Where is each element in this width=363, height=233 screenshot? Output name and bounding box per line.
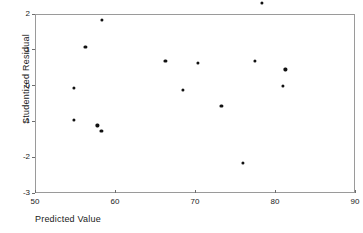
data-point	[220, 104, 223, 107]
y-axis-title: Studentized Residual	[21, 9, 31, 149]
x-tick-mark	[35, 190, 36, 193]
data-point	[73, 86, 76, 89]
x-axis-tick: 70	[195, 193, 196, 194]
data-point	[73, 118, 76, 121]
x-tick-label: 60	[111, 196, 120, 207]
x-axis-tick: 90	[355, 193, 356, 194]
y-axis-tick: -2	[0, 157, 35, 158]
y-tick-mark	[32, 121, 35, 122]
x-axis-tick: 80	[275, 193, 276, 194]
x-axis-tick: 60	[115, 193, 116, 194]
y-tick-mark	[32, 49, 35, 50]
scatter-plot-figure: 210-1-2-35060708090 Studentized Residual…	[0, 0, 363, 233]
data-point-layer	[35, 14, 355, 193]
x-tick-mark	[115, 190, 116, 193]
x-axis-title: Predicted Value	[35, 214, 101, 224]
x-tick-label: 90	[351, 196, 360, 207]
data-point	[281, 84, 284, 87]
y-tick-label: -3	[23, 187, 30, 198]
data-point	[181, 88, 184, 91]
x-tick-mark	[195, 190, 196, 193]
data-point	[284, 68, 287, 71]
y-tick-label: -2	[23, 151, 30, 162]
y-tick-mark	[32, 85, 35, 86]
y-tick-mark	[32, 14, 35, 15]
x-tick-label: 70	[191, 196, 200, 207]
y-tick-mark	[32, 157, 35, 158]
x-tick-mark	[355, 190, 356, 193]
data-point	[164, 59, 167, 62]
x-tick-mark	[275, 190, 276, 193]
data-point	[100, 129, 103, 132]
data-point	[253, 59, 256, 62]
x-tick-label: 80	[271, 196, 280, 207]
y-axis-tick: -3	[0, 193, 35, 194]
data-point	[241, 161, 244, 164]
data-point	[261, 1, 264, 4]
x-axis-tick: 50	[35, 193, 36, 194]
data-point	[197, 61, 200, 64]
x-tick-label: 50	[31, 196, 40, 207]
data-point	[96, 124, 99, 127]
data-point	[84, 45, 87, 48]
data-point	[101, 18, 104, 21]
